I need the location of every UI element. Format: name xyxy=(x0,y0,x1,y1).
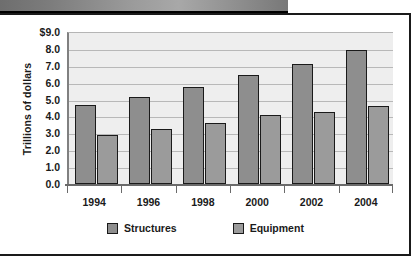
bar-group xyxy=(75,33,118,184)
figure-card: Trillions of dollars $9.08.07.06.05.04.0… xyxy=(0,13,411,256)
legend-swatch-icon xyxy=(233,223,244,234)
page-header-banner xyxy=(0,0,288,13)
y-axis-tick-label: 8.0 xyxy=(16,43,60,55)
x-axis-tick-label: 2004 xyxy=(339,196,393,208)
x-axis-tick-labels: 199419961998200020022004 xyxy=(67,196,393,214)
bar-equipment-1998 xyxy=(205,123,226,184)
bar-structures-2000 xyxy=(238,75,259,184)
y-axis-tick-label: 6.0 xyxy=(16,77,60,89)
legend-label: Equipment xyxy=(250,222,304,234)
y-axis-tick-labels: $9.08.07.06.05.04.03.02.01.00.0 xyxy=(16,32,60,184)
x-axis-tick-mark xyxy=(176,186,177,193)
bar-chart: Trillions of dollars $9.08.07.06.05.04.0… xyxy=(0,15,411,258)
y-axis-tick-label: 2.0 xyxy=(16,144,60,156)
bar-equipment-1994 xyxy=(97,135,118,184)
bar-group xyxy=(183,33,226,184)
bar-group xyxy=(238,33,281,184)
x-axis-tick-label: 1996 xyxy=(122,196,176,208)
x-axis-tick-mark xyxy=(67,186,68,193)
x-axis-tick-marks xyxy=(67,186,393,194)
plot-area xyxy=(67,32,393,184)
y-axis-tick-label: 5.0 xyxy=(16,94,60,106)
page-header-banner-gap xyxy=(288,0,418,13)
x-axis-tick-label: 2002 xyxy=(285,196,339,208)
bar-structures-1996 xyxy=(129,97,150,184)
bar-group xyxy=(346,33,389,184)
y-axis-tick-label: 0.0 xyxy=(16,178,60,190)
x-axis-tick-mark xyxy=(230,186,231,193)
x-axis-tick-mark xyxy=(121,186,122,193)
bar-equipment-1996 xyxy=(151,129,172,184)
y-axis-tick-label: 3.0 xyxy=(16,127,60,139)
chart-legend: StructuresEquipment xyxy=(0,222,411,234)
x-axis-tick-label: 2000 xyxy=(230,196,284,208)
bar-structures-2004 xyxy=(346,50,367,184)
x-axis-tick-mark xyxy=(392,186,393,193)
bar-group xyxy=(129,33,172,184)
x-axis-tick-label: 1994 xyxy=(67,196,121,208)
bar-structures-1994 xyxy=(75,105,96,184)
bar-structures-1998 xyxy=(183,87,204,184)
x-axis-tick-mark xyxy=(339,186,340,193)
bar-group xyxy=(292,33,335,184)
bar-equipment-2004 xyxy=(368,106,389,184)
bar-equipment-2002 xyxy=(314,112,335,184)
legend-label: Structures xyxy=(124,222,177,234)
legend-swatch-icon xyxy=(107,223,118,234)
y-axis-tick-label: $9.0 xyxy=(16,26,60,38)
bar-equipment-2000 xyxy=(260,115,281,184)
y-axis-tick-label: 1.0 xyxy=(16,161,60,173)
bar-structures-2002 xyxy=(292,64,313,184)
x-axis-tick-mark xyxy=(284,186,285,193)
y-axis-tick-label: 7.0 xyxy=(16,60,60,72)
x-axis-tick-label: 1998 xyxy=(176,196,230,208)
legend-item-equipment: Equipment xyxy=(233,222,304,234)
legend-item-structures: Structures xyxy=(107,222,177,234)
y-axis-tick-label: 4.0 xyxy=(16,110,60,122)
